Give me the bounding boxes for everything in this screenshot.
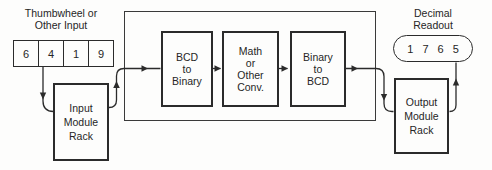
binary-to-bcd-box: Binary to BCD <box>290 31 346 107</box>
arrowhead-down-icon <box>40 93 46 100</box>
decimal-readout-label: Decimal Readout <box>391 7 475 31</box>
output-rack-line2: Module <box>404 109 438 123</box>
arrowhead-up-icon <box>453 79 459 86</box>
bcd-to-binary-line1: BCD <box>176 51 198 63</box>
thumbwheel-digit-2: 4 <box>38 41 63 66</box>
math-conv-line2: or <box>246 57 255 69</box>
arrowhead-down-icon <box>381 94 387 101</box>
readout-digit-4: 5 <box>453 43 459 55</box>
input-module-rack-box: Input Module Rack <box>53 83 109 161</box>
thumbwheel-digit-1: 6 <box>14 41 38 66</box>
bcd-conversion-block-diagram: Thumbwheel or Other Input 6 4 1 9 Input … <box>0 0 492 170</box>
bcd-to-binary-line2: to <box>183 63 192 75</box>
output-rack-line3: Rack <box>410 123 434 137</box>
wire-output-rack-to-readout <box>450 63 457 112</box>
thumbwheel-label: Thumbwheel or Other Input <box>5 7 117 31</box>
math-or-other-conv-box: Math or Other Conv. <box>222 31 279 107</box>
math-conv-line1: Math <box>239 45 262 57</box>
thumbwheel-label-line2: Other Input <box>5 19 117 31</box>
readout-digit-1: 1 <box>407 43 413 55</box>
thumbwheel-display: 6 4 1 9 <box>13 40 114 67</box>
bcd-to-binary-box: BCD to Binary <box>161 31 213 107</box>
thumbwheel-label-line1: Thumbwheel or <box>5 7 117 19</box>
binary-to-bcd-line3: BCD <box>307 75 329 87</box>
binary-to-bcd-line2: to <box>314 63 323 75</box>
readout-label-line2: Readout <box>391 19 475 31</box>
thumbwheel-digit-3: 1 <box>63 41 88 66</box>
math-conv-line4: Conv. <box>237 81 264 93</box>
readout-digit-2: 7 <box>422 43 428 55</box>
binary-to-bcd-line1: Binary <box>303 51 333 63</box>
math-conv-line3: Other <box>237 69 263 81</box>
input-rack-line1: Input <box>69 101 92 115</box>
output-rack-line1: Output <box>406 95 438 109</box>
input-rack-line2: Module <box>64 115 98 129</box>
readout-digit-3: 6 <box>438 43 444 55</box>
thumbwheel-digit-4: 9 <box>88 41 113 66</box>
decimal-readout-display: 1 7 6 5 <box>393 35 473 62</box>
input-rack-line3: Rack <box>69 129 93 143</box>
arrowhead-up-icon <box>113 81 120 88</box>
readout-label-line1: Decimal <box>391 7 475 19</box>
output-module-rack-box: Output Module Rack <box>394 78 449 154</box>
bcd-to-binary-line3: Binary <box>172 75 202 87</box>
